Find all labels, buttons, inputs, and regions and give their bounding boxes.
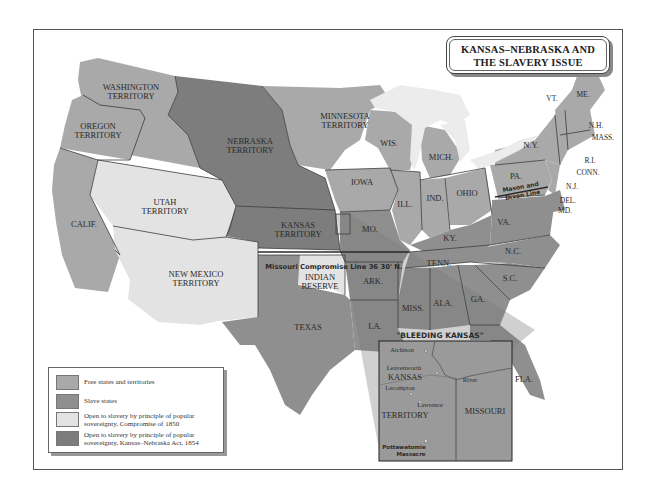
label-pennsylvania: PA. <box>510 171 522 181</box>
inset-river-label: River <box>463 376 478 383</box>
bleeding-kansas-inset: "BLEEDING KANSAS" Atchison Leavenworth K… <box>379 331 512 461</box>
label-arkansas: ARK. <box>363 276 383 286</box>
label-kentucky: KY. <box>443 233 456 243</box>
label-nh: N.H. <box>589 121 604 130</box>
map-title: KANSAS–NEBRASKA AND THE SLAVERY ISSUE <box>446 36 610 74</box>
label-wisconsin: WIS. <box>380 138 398 148</box>
label-missouri-compromise: Missouri Compromise Line 36 30' N. <box>265 263 402 271</box>
legend-item-slave: Slave states <box>56 394 117 409</box>
label-georgia: GA. <box>471 294 485 304</box>
label-nebraska-2: TERRITORY <box>226 145 273 155</box>
label-virginia: VA. <box>497 217 510 227</box>
label-kansas-2: TERRITORY <box>274 229 321 239</box>
label-mississippi: MISS. <box>402 303 424 313</box>
label-indiana: IND. <box>426 193 443 203</box>
legend-label-kansas-nebraska: Open to slavery by principle of popular … <box>84 431 199 447</box>
legend-label-free: Free states and territories <box>84 375 155 386</box>
label-vermont: VT. <box>546 94 557 103</box>
legend-item-compromise-1850: Open to slavery by principle of popular … <box>56 412 194 428</box>
label-maine: ME. <box>576 90 589 99</box>
label-ri: R.I. <box>584 156 595 165</box>
label-delaware: DEL. <box>560 196 577 205</box>
label-minnesota-2: TERRITORY <box>321 120 368 130</box>
legend-swatch-slave <box>56 394 79 409</box>
legend-label-kn-line1: Open to slavery by principle of popular <box>84 431 199 439</box>
legend-item-kansas-nebraska: Open to slavery by principle of popular … <box>56 431 199 447</box>
legend-swatch-compromise-1850 <box>56 412 79 427</box>
label-illinois: ILL. <box>397 199 412 209</box>
label-california: CALIF. <box>71 219 97 229</box>
legend-swatch-free <box>56 375 79 390</box>
inset-title: "BLEEDING KANSAS" <box>396 331 483 340</box>
place-atchison: Atchison <box>390 346 414 353</box>
inset-missouri-label: MISSOURI <box>465 406 506 416</box>
label-washington-2: TERRITORY <box>107 91 154 101</box>
label-nj: N.J. <box>566 182 578 191</box>
pottawatomie-label: Pottawatomie <box>382 444 426 450</box>
title-line-1: KANSAS–NEBRASKA AND <box>446 44 610 55</box>
label-florida: FLA. <box>515 374 533 384</box>
label-reserve: RESERVE <box>301 281 338 291</box>
label-texas: TEXAS <box>294 322 322 332</box>
label-ohio: OHIO <box>456 188 477 198</box>
label-mass: MASS. <box>592 133 614 142</box>
legend-item-free: Free states and territories <box>56 375 155 390</box>
inset-territory-label: TERRITORY <box>381 410 428 420</box>
label-tennessee: TENN. <box>427 258 452 268</box>
legend-swatch-kansas-nebraska <box>56 431 79 446</box>
label-sc: S.C. <box>503 273 518 283</box>
label-louisiana: LA. <box>368 321 381 331</box>
new-england <box>555 68 605 165</box>
legend-label-compromise-line2: sovereignty, Compromise of 1850 <box>84 420 194 428</box>
label-conn: CONN. <box>576 168 599 177</box>
label-nc: N.C. <box>505 246 521 256</box>
legend-label-kn-line2: sovereignty, Kansas–Nebraska Act, 1854 <box>84 439 199 447</box>
label-alabama: ALA. <box>433 298 453 308</box>
label-michigan: MICH. <box>429 152 453 162</box>
map-legend: Free states and territories Slave states… <box>48 367 224 453</box>
place-lecompton: Lecompton <box>385 384 415 391</box>
label-new-mexico-2: TERRITORY <box>172 278 219 288</box>
label-new-york: N.Y. <box>523 140 538 150</box>
iowa <box>325 168 398 212</box>
label-iowa: IOWA <box>351 177 374 187</box>
title-line-2: THE SLAVERY ISSUE <box>446 57 610 68</box>
legend-label-compromise-1850: Open to slavery by principle of popular … <box>84 412 194 428</box>
legend-label-slave: Slave states <box>84 394 117 405</box>
massacre-label: Massacre <box>396 451 425 457</box>
place-leavenworth: Leavenworth <box>387 364 422 371</box>
label-maryland: MD. <box>558 206 572 215</box>
legend-label-compromise-line1: Open to slavery by principle of popular <box>84 412 194 420</box>
inset-kansas-label: KANSAS <box>388 372 422 382</box>
label-oregon-2: TERRITORY <box>74 130 121 140</box>
label-missouri: MO. <box>362 224 378 234</box>
label-utah-2: TERRITORY <box>141 206 188 216</box>
